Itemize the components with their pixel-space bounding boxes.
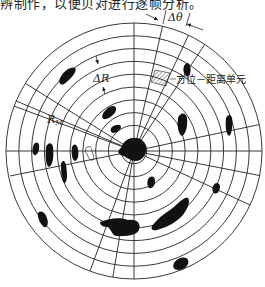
echo-mid-left [102, 106, 116, 119]
echo-left-2 [46, 143, 54, 167]
echo-upper-left [59, 67, 75, 84]
echo-left-1 [32, 143, 39, 156]
echo-right-lower-small [212, 183, 220, 194]
echo-near-left [111, 125, 121, 133]
echo-right-top [178, 114, 188, 137]
delta-r-label: ΔR [92, 72, 109, 85]
echo-lower-left [38, 212, 48, 228]
delta-theta-label: Δθ [167, 11, 183, 24]
radar-echoes [32, 63, 232, 270]
radar-polar-grid-diagram: 方位－距离单元 Δθ ΔR RM [0, 0, 265, 287]
echo-far-right [226, 115, 233, 136]
echo-outline [85, 147, 94, 161]
echo-near-lower-right [147, 177, 155, 189]
echo-left-4 [72, 145, 79, 161]
max-range-label: RM [46, 113, 63, 127]
azimuth-range-cell [151, 70, 170, 86]
